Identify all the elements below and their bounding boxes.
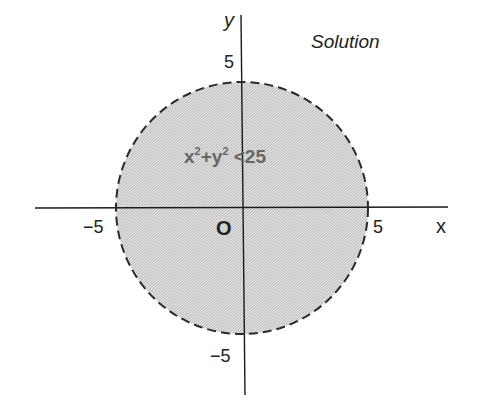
chart-title: Solution — [311, 32, 380, 51]
ineq-plus-y: +y — [201, 146, 223, 167]
y-tick-neg5: −5 — [210, 347, 231, 365]
y-axis-label: y — [224, 10, 234, 30]
origin-label: O — [216, 218, 232, 238]
ineq-rest: <25 — [229, 146, 267, 167]
y-tick-5: 5 — [224, 53, 234, 71]
x-axis — [35, 207, 448, 208]
x-tick-neg5: −5 — [83, 218, 104, 236]
inequality-label: x2+y2 <25 — [184, 146, 266, 166]
x-axis-label: x — [436, 216, 446, 236]
x-tick-5: 5 — [373, 218, 383, 236]
ineq-x: x — [184, 146, 195, 167]
chart-plot-area — [0, 0, 481, 410]
